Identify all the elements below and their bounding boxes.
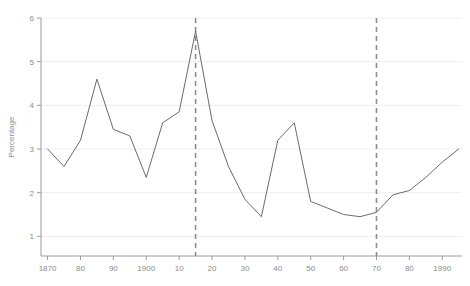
- y-tick-label-5: 5: [30, 58, 35, 67]
- y-tick-group: 123456: [30, 14, 41, 241]
- y-tick-label-1: 1: [30, 232, 35, 241]
- x-tick-label-1990: 1990: [433, 264, 451, 273]
- x-tick-label-20: 20: [208, 264, 217, 273]
- y-tick-label-3: 3: [30, 145, 35, 154]
- axes-group: [41, 18, 462, 256]
- x-tick-label-80: 80: [405, 264, 414, 273]
- y-tick-label-6: 6: [30, 14, 35, 23]
- y-tick-label-4: 4: [30, 101, 35, 110]
- x-tick-label-80: 80: [76, 264, 85, 273]
- gridlines-group: [41, 18, 462, 236]
- x-tick-group: 18708090190010203040506070801990: [39, 256, 452, 273]
- x-tick-label-50: 50: [306, 264, 315, 273]
- percentage-line-chart: 18708090190010203040506070801990 123456 …: [0, 0, 470, 286]
- x-tick-label-1870: 1870: [39, 264, 57, 273]
- series-line-percentage: [48, 31, 459, 217]
- x-tick-label-40: 40: [273, 264, 282, 273]
- x-tick-label-30: 30: [240, 264, 249, 273]
- x-tick-label-70: 70: [372, 264, 381, 273]
- y-axis-title: Percentage: [7, 116, 16, 157]
- y-tick-label-2: 2: [30, 189, 35, 198]
- annotation-marker-group: [196, 18, 377, 256]
- x-tick-label-1900: 1900: [137, 264, 155, 273]
- chart-container: 18708090190010203040506070801990 123456 …: [0, 0, 470, 286]
- x-tick-label-10: 10: [175, 264, 184, 273]
- x-tick-label-60: 60: [339, 264, 348, 273]
- x-tick-label-90: 90: [109, 264, 118, 273]
